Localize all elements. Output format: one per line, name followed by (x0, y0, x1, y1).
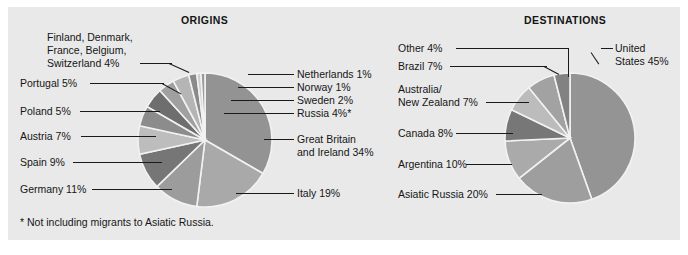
origins-leader-norway (238, 87, 294, 88)
destinations-leader-brazil (450, 66, 547, 67)
origins-label-finland-group-line1: Finland, Denmark, (47, 31, 133, 45)
destinations-leader-other-drop (568, 48, 569, 77)
origins-title: ORIGINS (181, 14, 228, 26)
origins-label-poland: Poland 5% (20, 105, 71, 119)
origins-label-netherlands: Netherlands 1% (297, 68, 372, 82)
origins-label-spain: Spain 9% (20, 156, 65, 170)
origins-leader-poland (80, 111, 160, 112)
origins-leader-great-britain (264, 139, 294, 140)
origins-label-finland-group-line2: France, Belgium, (47, 44, 126, 58)
destinations-label-us-line1: United (615, 42, 645, 56)
destinations-label-canada: Canada 8% (398, 127, 453, 141)
destinations-leader-us (601, 48, 613, 49)
destinations-label-other: Other 4% (398, 42, 442, 56)
destinations-label-asiatic-russia: Asiatic Russia 20% (398, 188, 488, 202)
origins-label-great-britain-line2: and Ireland 34% (297, 146, 373, 160)
destinations-label-argentina: Argentina 10% (398, 158, 467, 172)
origins-footnote: * Not including migrants to Asiatic Russ… (20, 216, 214, 228)
destinations-leader-argentina (466, 164, 512, 165)
origins-leader-netherlands (248, 74, 294, 75)
origins-label-finland-group-line3: Switzerland 4% (47, 57, 119, 71)
origins-leader-finland-group (140, 63, 172, 64)
destinations-leader-other (456, 48, 569, 49)
origins-label-portugal: Portugal 5% (20, 77, 77, 91)
origins-leader-austria (81, 136, 156, 137)
destinations-title: DESTINATIONS (524, 14, 606, 26)
destinations-leader-canada (456, 133, 513, 134)
origins-leader-spain (73, 162, 162, 163)
origins-leader-russia (224, 113, 294, 114)
origins-label-sweden: Sweden 2% (297, 94, 353, 108)
origins-label-norway: Norway 1% (297, 81, 351, 95)
origins-leader-portugal (90, 83, 164, 84)
destinations-label-brazil: Brazil 7% (398, 60, 442, 74)
destinations-label-us-line2: States 45% (615, 55, 669, 69)
destinations-label-anz-line1: Australia/ (398, 83, 442, 97)
origins-label-great-britain-line1: Great Britain (297, 133, 356, 147)
destinations-label-anz-line2: New Zealand 7% (398, 96, 478, 110)
origins-label-russia: Russia 4%* (297, 107, 351, 121)
origins-leader-sweden (231, 100, 294, 101)
origins-leader-italy (236, 193, 294, 194)
origins-label-austria: Austria 7% (20, 130, 71, 144)
destinations-leader-anz (486, 102, 529, 103)
destinations-leader-asiatic-russia (496, 194, 542, 195)
origins-label-italy: Italy 19% (297, 187, 340, 201)
figure-root: ORIGINS DESTINATIONS Finland, Denmark, F… (0, 0, 688, 255)
destinations-pie-chart (504, 72, 636, 204)
origins-leader-germany (92, 189, 172, 190)
origins-label-germany: Germany 11% (20, 183, 86, 197)
origins-pie-chart (137, 72, 273, 208)
